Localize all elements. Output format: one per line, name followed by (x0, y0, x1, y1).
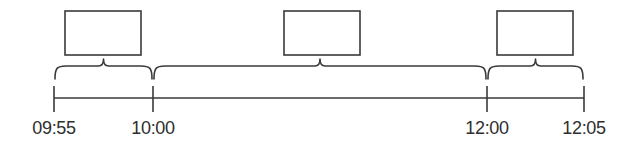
segment-box (284, 11, 360, 55)
timeline-canvas (0, 0, 636, 146)
curly-brace (55, 59, 152, 79)
tick-label-1000: 10:00 (131, 118, 175, 139)
tick-label-0955: 09:55 (32, 118, 76, 139)
tick-label-1205: 12:05 (562, 118, 606, 139)
tick-label-1200: 12:00 (465, 118, 509, 139)
timeline-diagram: 09:55 10:00 12:00 12:05 (0, 0, 636, 146)
curly-brace (488, 59, 583, 79)
curly-brace (154, 59, 486, 79)
timeline-ticks (54, 86, 584, 112)
segment-boxes (65, 11, 573, 55)
segment-braces (55, 59, 583, 79)
segment-box (65, 11, 141, 55)
segment-box (497, 11, 573, 55)
